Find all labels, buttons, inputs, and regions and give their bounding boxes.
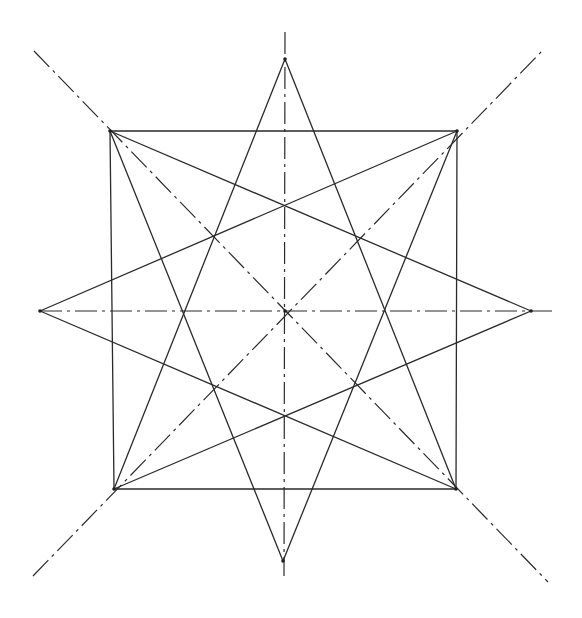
square-outline — [110, 131, 457, 489]
vertex-bottom — [281, 559, 285, 563]
square-edge-right — [456, 131, 457, 489]
vertex-tl — [108, 129, 112, 133]
vertex-right — [529, 309, 533, 313]
vertex-tr — [455, 129, 459, 133]
star-line-right-tl — [110, 131, 531, 311]
star-construction-diagram — [0, 0, 582, 618]
star-line-left-br — [40, 311, 456, 489]
axis-vertical — [284, 32, 285, 576]
vertex-bl — [112, 487, 116, 491]
star-line-bottom-tl — [110, 131, 283, 561]
square-edge-left — [110, 131, 114, 489]
star-line-top-br — [285, 59, 456, 489]
vertex-br — [454, 487, 458, 491]
vertex-center — [283, 309, 287, 313]
symmetry-axes — [33, 32, 552, 582]
vertex-top — [283, 57, 287, 61]
vertex-left — [38, 309, 42, 313]
star-line-top-bl — [114, 59, 285, 489]
